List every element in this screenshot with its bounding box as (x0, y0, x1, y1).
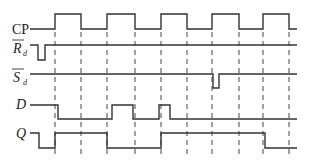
label-sd: S d (12, 69, 28, 87)
waveform-rd (30, 45, 297, 60)
svg-text:S: S (13, 70, 20, 85)
waveform-q (30, 133, 297, 148)
waveform-d (30, 105, 297, 119)
clock-edge-guides (55, 32, 289, 158)
svg-text:d: d (23, 49, 28, 58)
svg-text:R: R (12, 41, 22, 56)
waveform-sd (30, 74, 297, 88)
timing-diagram: CP R d S d D Q (0, 0, 309, 163)
label-cp: CP (12, 22, 29, 37)
label-rd: R d (12, 40, 28, 58)
label-d: D (15, 97, 26, 112)
label-q: Q (16, 126, 26, 141)
svg-text:d: d (23, 78, 28, 87)
waveform-cp (30, 14, 297, 29)
